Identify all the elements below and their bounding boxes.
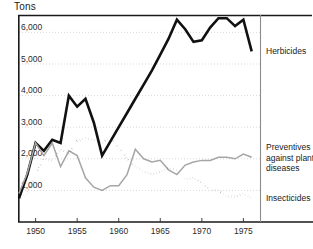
series-line-preventives (19, 143, 252, 194)
x-axis-tick-labels: 195019551960196519701975 (26, 226, 253, 236)
x-tick-1965: 1965 (151, 226, 170, 236)
x-tick-1950: 1950 (26, 226, 45, 236)
chart-legend: Herbicides Preventives against plant dis… (266, 46, 313, 203)
chart-plot-area: 1,0002,0003,0004,0005,0006,000 195019551… (0, 0, 313, 249)
x-tick-1970: 1970 (192, 226, 211, 236)
y-tick-4000: 4,000 (21, 85, 43, 95)
gridlines-group (19, 32, 260, 190)
y-tick-3000: 3,000 (21, 117, 43, 127)
y-axis-tick-labels: 1,0002,0003,0004,0005,0006,000 (21, 22, 43, 190)
y-tick-6000: 6,000 (21, 22, 43, 32)
y-tick-5000: 5,000 (21, 54, 43, 64)
data-series-group (19, 18, 252, 200)
legend-label-preventives: Preventives against plant diseases (266, 142, 313, 173)
pesticide-usage-chart: Tons 1,0002,0003,0004,0005,0006,000 1950… (0, 0, 313, 249)
legend-label-herbicides: Herbicides (266, 46, 306, 56)
x-tick-1960: 1960 (109, 226, 128, 236)
series-line-herbicides (19, 18, 252, 198)
x-tick-1955: 1955 (68, 226, 87, 236)
legend-label-insecticides: Insecticides (266, 193, 310, 203)
x-tick-1975: 1975 (234, 226, 253, 236)
